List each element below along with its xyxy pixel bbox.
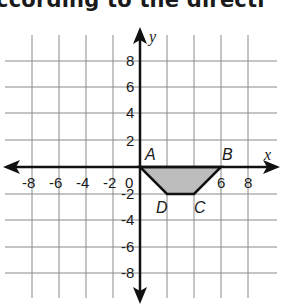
x-tick-label: -2	[103, 174, 116, 191]
x-tick-label: 6	[217, 174, 225, 191]
trapezoid-abcd	[140, 167, 221, 194]
coordinate-plane: x y -8 -6 -4 -2 0 6 8 8 6 4 2 -2 -4 -6 -…	[0, 0, 283, 306]
y-tick-label: -6	[121, 238, 134, 255]
x-tick-label: -6	[49, 174, 62, 191]
vertex-label-d: D	[156, 199, 168, 216]
y-tick-label: 2	[126, 132, 134, 149]
x-tick-label: -4	[76, 174, 89, 191]
x-tick-label: -8	[22, 174, 35, 191]
vertex-label-c: C	[194, 199, 206, 216]
y-tick-label: 6	[126, 78, 134, 95]
y-axis-label: y	[147, 28, 157, 46]
vertex-label-b: B	[222, 146, 233, 163]
x-axis-label: x	[263, 146, 271, 163]
y-tick-label: 8	[126, 52, 134, 69]
y-tick-label: 4	[126, 104, 134, 121]
x-tick-label: 8	[244, 174, 252, 191]
y-axis	[133, 27, 147, 304]
y-tick-label: -2	[121, 185, 134, 202]
x-tick-labels: -8 -6 -4 -2 0 6 8	[22, 174, 252, 191]
x-axis	[3, 160, 280, 174]
y-tick-label: -8	[121, 264, 134, 281]
vertex-label-a: A	[144, 146, 156, 163]
y-tick-label: -4	[121, 211, 134, 228]
